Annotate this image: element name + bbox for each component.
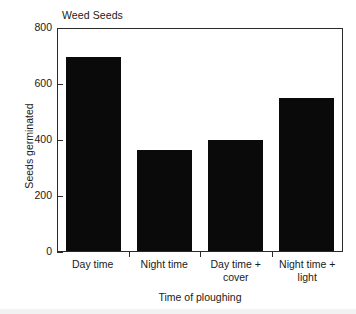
- y-axis-tick-label: 400: [34, 133, 52, 145]
- bar[interactable]: [279, 98, 334, 251]
- scan-edge-artifact: [0, 309, 356, 314]
- bar-slot: [58, 29, 129, 251]
- bar[interactable]: [137, 150, 192, 251]
- y-axis-tick: [57, 196, 63, 197]
- x-axis-tick: [129, 252, 130, 257]
- plot-area: [57, 28, 343, 252]
- y-axis-tick: [57, 252, 63, 253]
- bar[interactable]: [66, 57, 121, 251]
- y-axis-tick-label: 800: [34, 21, 52, 33]
- bar-slot: [200, 29, 271, 251]
- x-axis-category-label: Night time +light: [266, 258, 350, 283]
- y-axis-tick: [57, 28, 63, 29]
- y-axis-tick-label: 600: [34, 77, 52, 89]
- x-axis-tick: [272, 252, 273, 257]
- y-axis-tick-label: 200: [34, 189, 52, 201]
- bars-layer: [58, 29, 342, 251]
- chart-title: Weed Seeds: [62, 9, 123, 21]
- x-axis-category-label-line: Night time +: [266, 258, 350, 271]
- y-axis-tick-label: 0: [46, 245, 52, 257]
- x-axis-tick: [200, 252, 201, 257]
- bar-chart-figure: Weed Seeds 0200400600800 Day timeNight t…: [0, 0, 356, 314]
- y-axis-tick: [57, 84, 63, 85]
- y-axis-title: Seeds germinated: [23, 66, 35, 226]
- bar-slot: [271, 29, 342, 251]
- bar[interactable]: [208, 140, 263, 251]
- x-axis-category-label-line: light: [266, 271, 350, 284]
- x-axis-title: Time of ploughing: [57, 291, 343, 303]
- y-axis-tick: [57, 140, 63, 141]
- bar-slot: [129, 29, 200, 251]
